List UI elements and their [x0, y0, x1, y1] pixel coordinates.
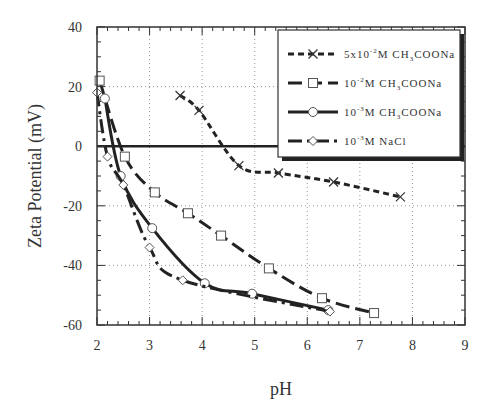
legend-label-part: 10 [344, 77, 357, 89]
y-tick-label: -40 [63, 258, 82, 273]
legend-label: 10-3M NaCl [344, 134, 407, 147]
x-tick-labels: 23456789 [94, 338, 469, 353]
square-marker [318, 294, 327, 303]
y-axis-title: Zeta Potential (mV) [25, 104, 46, 248]
square-marker [264, 264, 273, 273]
square-marker [217, 231, 226, 240]
x-tick-label: 8 [409, 338, 416, 353]
y-tick-label: 20 [68, 80, 82, 95]
legend-label-part: M CH [378, 48, 410, 60]
x-tick-label: 3 [146, 338, 153, 353]
y-tick-label: -60 [63, 318, 82, 333]
x-tick-label: 7 [356, 338, 363, 353]
square-marker [120, 152, 129, 161]
diamond-marker [178, 276, 187, 285]
diamond-marker [103, 152, 112, 161]
legend-label-part: M CH [365, 106, 397, 118]
circle-marker [148, 224, 157, 233]
x-tick-label: 4 [199, 338, 206, 353]
square-marker [183, 209, 192, 218]
y-tick-label: 0 [75, 139, 82, 154]
x-tick-label: 9 [462, 338, 469, 353]
y-tick-label: -20 [63, 199, 82, 214]
legend-label-part: 10 [344, 106, 357, 118]
y-tick-labels: -60-40-2002040 [63, 20, 82, 333]
x-marker [194, 106, 203, 115]
legend-label-part: COONa [401, 77, 442, 89]
x-tick-label: 6 [304, 338, 311, 353]
legend-label-part: M NaCl [365, 135, 407, 147]
legend-label-part: -2 [370, 47, 378, 55]
legend-label-part: -3 [357, 134, 365, 142]
legend-label-part: -3 [357, 105, 365, 113]
legend: 5x10-2M CH3COONa10-2M CH3COONa10-3M CH3C… [278, 30, 464, 161]
zeta-potential-chart: 23456789 -60-40-2002040 pH Zeta Potentia… [0, 0, 492, 420]
x-tick-label: 2 [94, 338, 101, 353]
circle-marker [309, 108, 318, 117]
x-marker [176, 91, 185, 100]
circle-marker [100, 94, 109, 103]
square-marker [309, 79, 318, 88]
square-marker [150, 188, 159, 197]
legend-label-part: COONa [401, 106, 442, 118]
x-axis-title: pH [270, 379, 292, 399]
x-tick-label: 5 [251, 338, 258, 353]
square-marker [370, 309, 379, 318]
legend-label-part: 10 [344, 135, 357, 147]
y-tick-label: 40 [68, 20, 82, 35]
legend-label-part: -2 [357, 76, 365, 84]
x-marker [234, 161, 243, 170]
legend-label-part: COONa [414, 48, 455, 60]
legend-label-part: M CH [365, 77, 397, 89]
legend-label-part: 5x10 [344, 48, 370, 60]
